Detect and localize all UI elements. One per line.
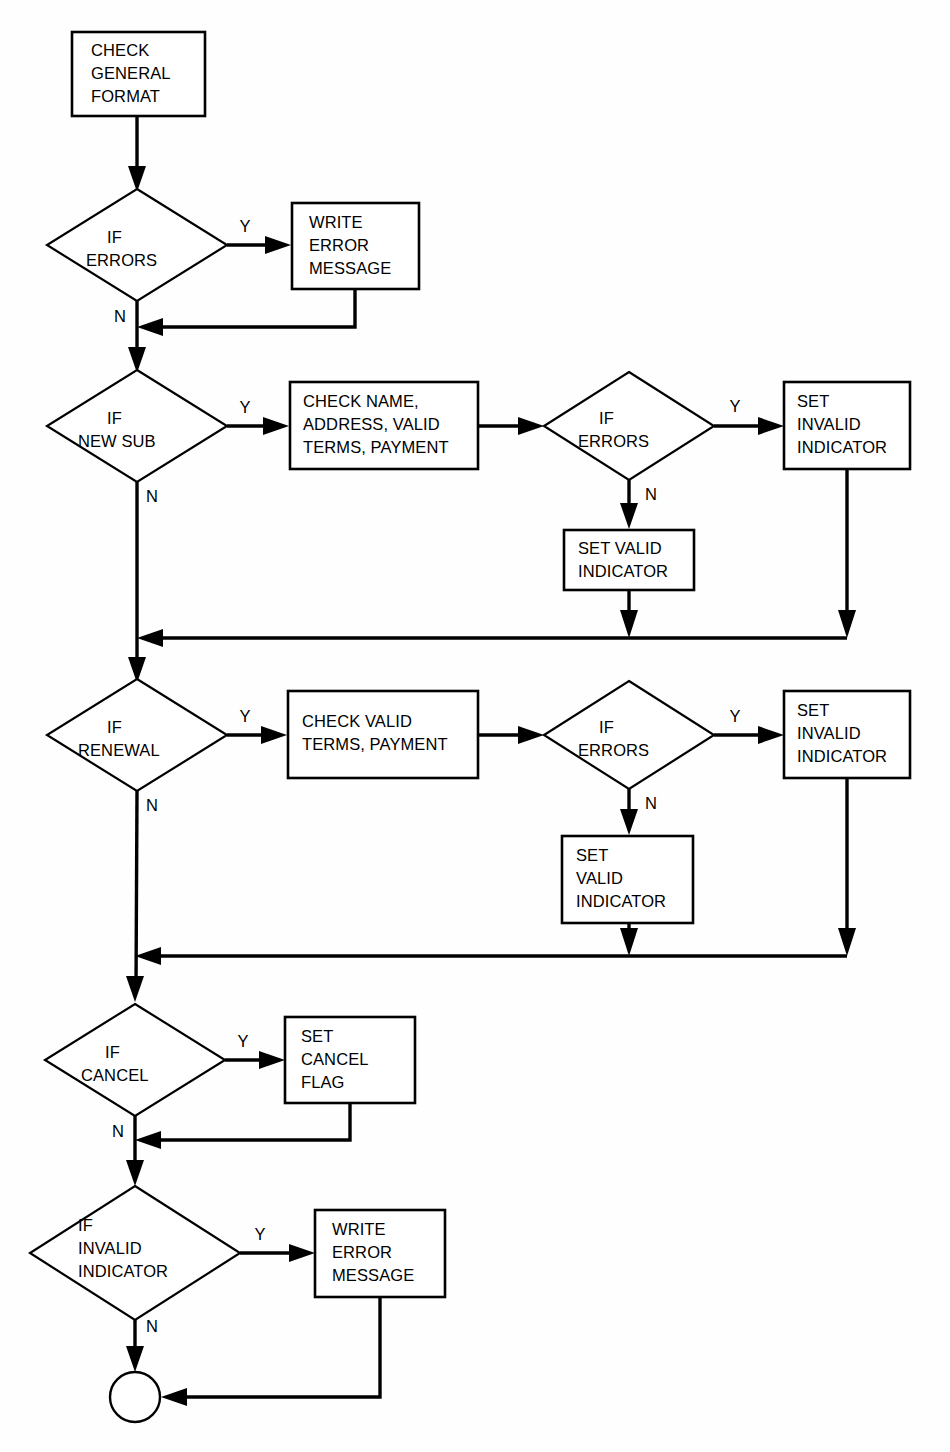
arrowhead-checkname-to-errors2 <box>518 417 544 435</box>
arrowhead-renewal-yes <box>261 726 287 744</box>
node-set-invalid-indicator-2[interactable]: SET INVALID INDICATOR <box>784 691 910 778</box>
node-line: MESSAGE <box>332 1266 414 1284</box>
edge-label-y: Y <box>239 398 250 416</box>
edge-label-n: N <box>146 1317 158 1335</box>
edge-label-y: Y <box>239 707 250 725</box>
node-line: INDICATOR <box>576 892 666 910</box>
arrowhead-checkvalid-to-errors3 <box>518 726 544 744</box>
node-line: ERRORS <box>86 251 157 269</box>
node-line: SET <box>797 392 829 410</box>
node-line: ERROR <box>332 1243 392 1261</box>
node-line: SET <box>301 1027 333 1045</box>
node-line: WRITE <box>332 1220 386 1238</box>
node-line: INDICATOR <box>578 562 668 580</box>
arrowhead-error1-return <box>137 318 163 336</box>
arrowhead-setvalid2-down <box>620 928 638 956</box>
node-line: VALID <box>576 869 623 887</box>
node-line: CHECK <box>91 41 149 59</box>
node-line: FLAG <box>301 1073 345 1091</box>
node-line: SET VALID <box>578 539 662 557</box>
node-set-cancel-flag[interactable]: SET CANCEL FLAG <box>285 1017 415 1103</box>
node-check-name-address[interactable]: CHECK NAME, ADDRESS, VALID TERMS, PAYMEN… <box>290 382 478 469</box>
node-set-invalid-indicator-1[interactable]: SET INVALID INDICATOR <box>784 382 910 469</box>
arrowhead-errors3-no <box>620 809 638 835</box>
node-line: CHECK VALID <box>302 712 412 730</box>
node-line: SET <box>576 846 608 864</box>
edge-cancelflag-return <box>150 1103 350 1140</box>
edge-label-y: Y <box>237 1032 248 1050</box>
node-check-general-format[interactable]: CHECK GENERAL FORMAT <box>72 32 205 116</box>
node-line: MESSAGE <box>309 259 391 277</box>
node-if-invalid-indicator[interactable]: IF INVALID INDICATOR <box>30 1186 240 1320</box>
node-line: IF <box>599 409 614 427</box>
arrowhead-cancel-yes <box>259 1051 285 1069</box>
node-line: GENERAL <box>91 64 171 82</box>
node-if-errors-1[interactable]: IF ERRORS <box>47 189 227 301</box>
arrowhead-errors1-yes <box>265 236 291 254</box>
arrowhead-setinvalid2-down <box>838 928 856 956</box>
arrowhead-newsub-yes <box>263 417 289 435</box>
node-if-renewal[interactable]: IF RENEWAL <box>47 679 227 791</box>
node-line: IF <box>105 1043 120 1061</box>
node-line: RENEWAL <box>78 741 160 759</box>
arrowhead-errors2-yes <box>758 417 784 435</box>
decision-diamond[interactable] <box>45 1004 225 1116</box>
node-line: ERRORS <box>578 741 649 759</box>
node-write-error-message-1[interactable]: WRITE ERROR MESSAGE <box>292 203 419 289</box>
decision-diamond[interactable] <box>47 370 227 482</box>
edge-label-y: Y <box>729 397 740 415</box>
node-line: INVALID <box>797 415 861 433</box>
arrowhead-renewal-no <box>126 976 144 1002</box>
decision-diamond[interactable] <box>544 372 714 480</box>
node-line: TERMS, PAYMENT <box>303 438 449 456</box>
node-line: IF <box>107 228 122 246</box>
flowchart-svg: CHECK GENERAL FORMAT IF ERRORS WRITE ERR… <box>0 0 950 1452</box>
edge-label-n: N <box>114 307 126 325</box>
edge-error1-return <box>152 289 355 327</box>
arrowhead-errors2-no <box>620 503 638 529</box>
node-if-errors-2[interactable]: IF ERRORS <box>544 372 714 480</box>
terminator-circle[interactable] <box>110 1372 160 1422</box>
edge-label-y: Y <box>729 707 740 725</box>
arrowhead-setvalid1-down <box>620 610 638 638</box>
decision-diamond[interactable] <box>544 681 714 789</box>
edge-label-n: N <box>645 794 657 812</box>
node-line: INDICATOR <box>797 438 887 456</box>
edge-renewal-no <box>136 791 137 988</box>
node-line: IF <box>107 718 122 736</box>
edge-label-n: N <box>112 1122 124 1140</box>
arrowhead-merge-bus-row2 <box>137 629 163 647</box>
arrowhead-merge-bus-row3 <box>135 947 161 965</box>
node-if-errors-3[interactable]: IF ERRORS <box>544 681 714 789</box>
node-write-error-message-2[interactable]: WRITE ERROR MESSAGE <box>315 1210 445 1297</box>
node-line: ERROR <box>309 236 369 254</box>
node-set-valid-indicator-1[interactable]: SET VALID INDICATOR <box>564 530 694 590</box>
arrowhead-invalid-yes <box>289 1244 315 1262</box>
arrowhead-invalid-no <box>126 1346 144 1372</box>
node-line: IF <box>78 1216 93 1234</box>
flowchart-canvas: CHECK GENERAL FORMAT IF ERRORS WRITE ERR… <box>0 0 950 1452</box>
arrowhead-errors3-yes <box>758 726 784 744</box>
node-line: WRITE <box>309 213 363 231</box>
node-end-connector[interactable] <box>110 1372 160 1422</box>
node-line: TERMS, PAYMENT <box>302 735 448 753</box>
arrowhead-setinvalid1-down <box>838 610 856 638</box>
decision-diamond[interactable] <box>47 679 227 791</box>
node-line: CANCEL <box>81 1066 149 1084</box>
decision-diamond[interactable] <box>47 189 227 301</box>
node-if-new-sub[interactable]: IF NEW SUB <box>47 370 227 482</box>
node-line: CANCEL <box>301 1050 369 1068</box>
node-check-valid-terms[interactable]: CHECK VALID TERMS, PAYMENT <box>288 691 478 778</box>
node-set-valid-indicator-2[interactable]: SET VALID INDICATOR <box>562 836 693 923</box>
arrowhead-error2-return <box>161 1388 187 1406</box>
node-line: INDICATOR <box>78 1262 168 1280</box>
node-line: NEW SUB <box>78 432 156 450</box>
node-line: INVALID <box>78 1239 142 1257</box>
node-line: CHECK NAME, <box>303 392 419 410</box>
connector-layer <box>126 116 856 1406</box>
edge-label-n: N <box>645 485 657 503</box>
node-if-cancel[interactable]: IF CANCEL <box>45 1004 225 1116</box>
node-line: IF <box>107 409 122 427</box>
arrowhead-cancel-no <box>126 1160 144 1186</box>
edge-label-n: N <box>146 487 158 505</box>
